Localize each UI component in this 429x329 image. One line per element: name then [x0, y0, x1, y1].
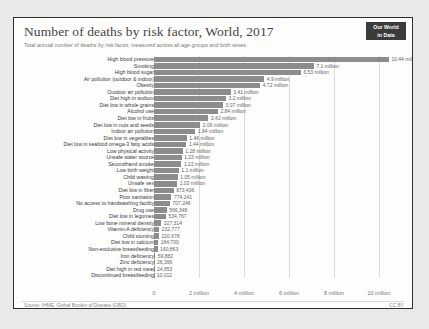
license-note[interactable]: CC BY: [389, 303, 404, 308]
bar-value-label: 2.42 million: [211, 115, 236, 122]
page-title: Number of deaths by risk factor, World, …: [24, 24, 274, 40]
bar[interactable]: [154, 122, 200, 128]
bar-category-label: Discontinued breastfeeding: [13, 272, 154, 279]
bar-row[interactable]: Diet low in fruits2.42 million: [14, 115, 413, 122]
bar[interactable]: [154, 220, 161, 226]
x-axis-tick-label: 10 million: [368, 290, 391, 296]
bar[interactable]: [154, 161, 181, 167]
bar-value-label: 1.28 million: [185, 148, 210, 155]
bar[interactable]: [154, 233, 159, 239]
source-note: Source: IHME, Global Burden of Disease (…: [24, 303, 126, 308]
bar[interactable]: [154, 70, 301, 76]
bar[interactable]: [154, 109, 218, 115]
bar-row[interactable]: Discontinued breastfeeding10,012: [14, 272, 413, 279]
bar-row[interactable]: Unsafe sex1.03 million: [14, 180, 413, 187]
x-axis-tick-label: 4 million: [234, 290, 254, 296]
bar-value-label: 4.72 million: [263, 82, 288, 89]
bar[interactable]: [154, 168, 179, 174]
bar[interactable]: [154, 194, 171, 200]
footer-divider: [22, 301, 404, 302]
bar[interactable]: [154, 76, 264, 82]
bar-value-label: 10,012: [157, 272, 172, 279]
bar-category-label: Diet low in fruits: [13, 115, 154, 122]
x-axis-tick-label: 2 million: [189, 290, 209, 296]
bar[interactable]: [154, 246, 158, 252]
bar-row[interactable]: Obesity4.72 million: [14, 82, 413, 89]
bar-value-label: 534,767: [169, 213, 187, 220]
bar[interactable]: [154, 253, 155, 259]
bar[interactable]: [154, 148, 183, 154]
bar[interactable]: [154, 142, 186, 148]
bar-row[interactable]: Low physical activity1.28 million: [14, 148, 413, 155]
bar[interactable]: [154, 135, 187, 141]
bar[interactable]: [154, 260, 155, 266]
bar[interactable]: [154, 96, 226, 102]
bar[interactable]: [154, 273, 155, 279]
bar-category-label: Obesity: [13, 82, 154, 89]
bar-category-label: Non-exclusive breastfeeding: [13, 246, 154, 253]
bar-value-label: 160,863: [160, 246, 178, 253]
bar[interactable]: [154, 207, 167, 213]
bar[interactable]: [154, 188, 174, 194]
bar[interactable]: [154, 181, 177, 187]
x-axis-tick-label: 6 million: [279, 290, 299, 296]
bar-chart-plot-area: High blood pressure10.44 millionSmoking7…: [14, 56, 413, 288]
bar[interactable]: [154, 174, 178, 180]
bar[interactable]: [154, 214, 166, 220]
bar[interactable]: [154, 115, 208, 121]
bar-category-label: Diet low in legumes: [13, 213, 154, 220]
our-world-in-data-logo[interactable]: Our World in Data: [366, 22, 406, 40]
bar-row[interactable]: Non-exclusive breastfeeding160,863: [14, 246, 413, 253]
bar[interactable]: [154, 240, 158, 246]
x-axis-tick-label: 0: [153, 290, 156, 296]
bar[interactable]: [154, 102, 223, 108]
bar[interactable]: [154, 201, 170, 207]
chart-subtitle: Total annual number of deaths by risk fa…: [24, 42, 248, 48]
bar[interactable]: [154, 89, 231, 95]
chart-panel: Number of deaths by risk factor, World, …: [13, 17, 413, 309]
bar-row[interactable]: Diet low in legumes534,767: [14, 213, 413, 220]
bar[interactable]: [154, 266, 155, 272]
bar[interactable]: [154, 227, 159, 233]
logo-line-2: in Data: [366, 32, 406, 39]
bar[interactable]: [154, 57, 389, 63]
bar[interactable]: [154, 63, 314, 69]
bar[interactable]: [154, 129, 195, 135]
x-axis-tick-label: 8 million: [324, 290, 344, 296]
bar[interactable]: [154, 155, 182, 161]
bar-category-label: Low physical activity: [13, 148, 154, 155]
bar-category-label: Unsafe sex: [13, 180, 154, 187]
bar[interactable]: [154, 83, 260, 89]
logo-line-1: Our World: [366, 24, 406, 31]
bar-value-label: 1.03 million: [180, 180, 205, 187]
